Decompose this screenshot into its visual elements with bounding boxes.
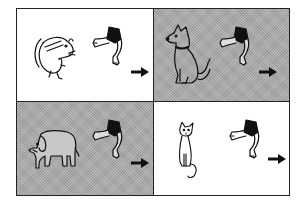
cell-mouse: mouse [17, 9, 154, 102]
cat-icon [176, 122, 206, 182]
arrow-right-icon [131, 67, 149, 77]
arrow-right-icon [268, 154, 286, 164]
cell-cat: cat [154, 102, 289, 195]
cell-elephant: elephant [17, 102, 154, 195]
picture-grid: mouse [16, 8, 290, 196]
walking-legs-icon [91, 25, 135, 75]
arrow-right-icon [131, 158, 149, 168]
mouse-icon [31, 29, 77, 83]
arrow-right-icon [259, 67, 277, 77]
walking-legs-icon [228, 118, 272, 168]
cell-dog: dog [154, 9, 289, 102]
walking-legs-icon [91, 118, 135, 168]
dog-icon [164, 23, 212, 89]
walking-legs-icon [218, 25, 262, 75]
elephant-icon [27, 128, 83, 172]
